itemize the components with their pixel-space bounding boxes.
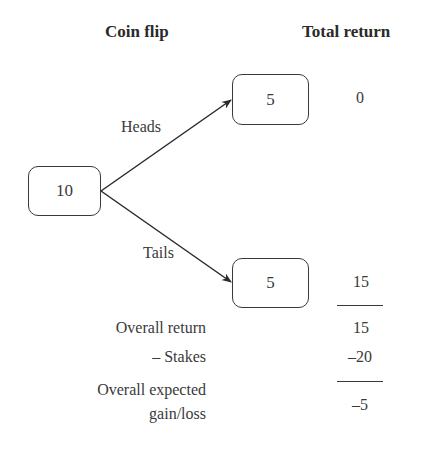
divider-rule-2 [337,381,383,382]
expected-gain-loss-value: –5 [340,394,380,416]
overall-return-value: 15 [341,317,381,339]
heads-label: Heads [121,118,161,136]
root-node: 10 [28,166,101,216]
divider-rule-1 [337,305,383,306]
tree-edges [0,0,441,453]
overall-return-label: Overall return [116,317,206,339]
root-node-value: 10 [56,181,73,201]
tails-edge-arrow [101,191,231,282]
stakes-label: – Stakes [152,346,206,368]
heads-node-value: 5 [266,90,275,110]
tails-node-value: 5 [266,273,275,293]
heads-node: 5 [232,74,309,125]
heads-edge-arrow [101,100,231,191]
expected-gain-loss-label-line2: gain/loss [97,403,206,425]
expected-gain-loss-label: Overall expected gain/loss [97,379,206,425]
tails-total-return: 15 [341,273,381,291]
tails-label: Tails [143,244,174,262]
tails-node: 5 [232,258,309,308]
expected-gain-loss-label-line1: Overall expected [97,379,206,401]
heads-total-return: 0 [340,89,380,107]
stakes-value: –20 [340,346,380,368]
